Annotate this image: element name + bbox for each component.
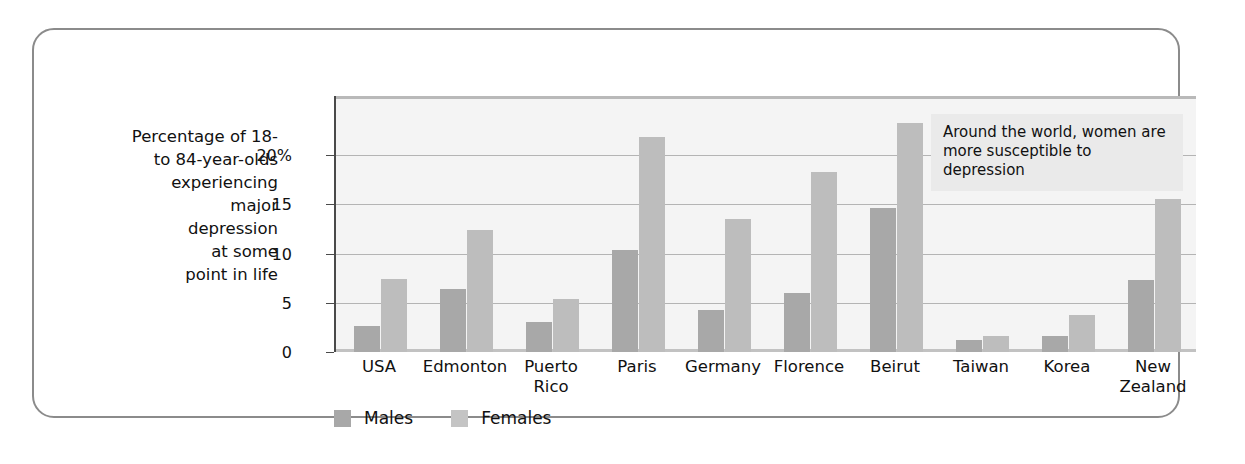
- bar-group: [508, 96, 594, 352]
- x-axis-label-beirut: Beirut: [852, 357, 938, 397]
- legend-swatch-females-icon: [451, 410, 468, 427]
- bar-males-germany[interactable]: [698, 310, 724, 352]
- legend-swatch-males-icon: [334, 410, 351, 427]
- x-axis-label-paris: Paris: [594, 357, 680, 397]
- legend-label-males: Males: [364, 408, 413, 428]
- y-tick-label-5: 5: [172, 293, 292, 312]
- x-axis-label-taiwan: Taiwan: [938, 357, 1024, 397]
- bar-males-paris[interactable]: [612, 250, 638, 352]
- y-tick-mark-20: [326, 155, 334, 156]
- legend-item-males[interactable]: Males: [334, 408, 413, 428]
- chart-legend: Males Females: [334, 408, 551, 428]
- y-tick-label-20: 20%: [172, 146, 292, 165]
- x-axis-category-labels: USAEdmontonPuerto RicoParisGermanyFloren…: [336, 357, 1196, 397]
- bar-group: [594, 96, 680, 352]
- y-tick-mark-0: [326, 352, 334, 353]
- bar-females-new-zealand[interactable]: [1155, 199, 1181, 352]
- annotation-callout: Around the world, women are more suscept…: [931, 114, 1183, 191]
- bar-females-edmonton[interactable]: [467, 230, 493, 352]
- y-tick-mark-5: [326, 303, 334, 304]
- x-axis-label-florence: Florence: [766, 357, 852, 397]
- x-axis-label-edmonton: Edmonton: [422, 357, 508, 397]
- y-tick-label-10: 10: [172, 244, 292, 263]
- figure-frame: Percentage of 18- to 84-year-olds experi…: [32, 28, 1180, 418]
- legend-item-females[interactable]: Females: [451, 408, 551, 428]
- x-axis-label-new-zealand: New Zealand: [1110, 357, 1196, 397]
- y-tick-mark-15: [326, 204, 334, 205]
- bar-females-beirut[interactable]: [897, 123, 923, 352]
- bar-group: [336, 96, 422, 352]
- bar-females-taiwan[interactable]: [983, 336, 1009, 352]
- bar-females-puerto-rico[interactable]: [553, 299, 579, 352]
- bar-males-new-zealand[interactable]: [1128, 280, 1154, 352]
- bar-group: [766, 96, 852, 352]
- bar-group: [852, 96, 938, 352]
- x-axis-label-puerto-rico: Puerto Rico: [508, 357, 594, 397]
- bar-group: [422, 96, 508, 352]
- bar-females-paris[interactable]: [639, 137, 665, 352]
- bar-males-puerto-rico[interactable]: [526, 322, 552, 352]
- bar-males-korea[interactable]: [1042, 336, 1068, 352]
- y-tick-label-0: 0: [172, 343, 292, 362]
- x-axis-label-korea: Korea: [1024, 357, 1110, 397]
- bar-males-beirut[interactable]: [870, 208, 896, 352]
- bar-males-usa[interactable]: [354, 326, 380, 352]
- y-tick-label-15: 15: [172, 195, 292, 214]
- bar-males-florence[interactable]: [784, 293, 810, 352]
- bar-females-usa[interactable]: [381, 279, 407, 352]
- x-axis-label-usa: USA: [336, 357, 422, 397]
- bar-males-edmonton[interactable]: [440, 289, 466, 352]
- legend-label-females: Females: [481, 408, 551, 428]
- bar-females-korea[interactable]: [1069, 315, 1095, 352]
- bar-males-taiwan[interactable]: [956, 340, 982, 352]
- x-axis-label-germany: Germany: [680, 357, 766, 397]
- bar-group: [680, 96, 766, 352]
- bar-females-florence[interactable]: [811, 172, 837, 352]
- bar-females-germany[interactable]: [725, 219, 751, 352]
- y-tick-mark-10: [326, 254, 334, 255]
